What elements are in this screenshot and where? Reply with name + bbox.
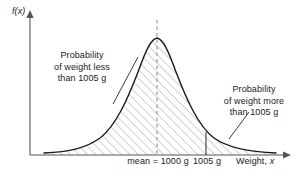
y-axis-label-arg: (x) [15, 6, 26, 16]
cutoff-tick-label: 1005 g [186, 156, 228, 168]
annotation-right-line-3: than 1005 g [214, 107, 294, 119]
x-axis-arrow-icon [283, 151, 291, 158]
y-axis-arrow-icon [26, 10, 33, 18]
annotation-left: Probability of weight less than 1005 g [44, 50, 120, 85]
annotation-left-line-3: than 1005 g [44, 73, 120, 85]
annotation-right-line-2: of weight more [214, 96, 294, 108]
normal-distribution-figure: f(x) Weight, x Probability of weight les… [0, 0, 301, 176]
y-axis-label: f(x) [12, 6, 25, 18]
annotation-left-line-1: Probability [44, 50, 120, 62]
x-axis-label-text: Weight, [236, 156, 267, 166]
x-axis-label-var: x [270, 156, 275, 166]
x-axis-label: Weight, x [236, 156, 274, 168]
annotation-right-line-1: Probability [214, 84, 294, 96]
annotation-left-line-2: of weight less [44, 62, 120, 74]
annotation-right: Probability of weight more than 1005 g [214, 84, 294, 119]
